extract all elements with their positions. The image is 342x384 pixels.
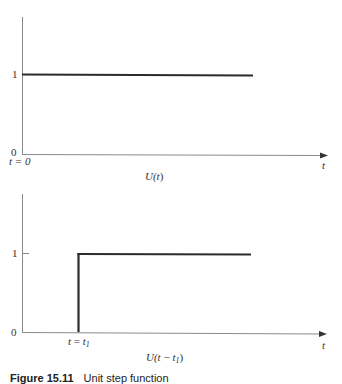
bottom-step-line: [78, 254, 252, 255]
figure-number: Figure 15.11: [10, 372, 74, 384]
bottom-x-tick-eq: =: [71, 335, 83, 347]
bottom-function-label-close: ): [179, 351, 183, 363]
bottom-function-label-minus: −: [161, 351, 173, 363]
bottom-x-tick-label: t = t1: [68, 335, 90, 351]
bottom-function-label: U(t − t1): [146, 351, 183, 367]
bottom-function-label-main: U(: [146, 351, 158, 363]
bottom-y-tick-1: 1: [12, 247, 18, 259]
bottom-x-axis-arrow-icon: [319, 331, 327, 337]
bottom-x-axis: [22, 333, 321, 335]
bottom-x-tick-sub: 1: [86, 340, 90, 349]
bottom-y-tick-0: 0: [11, 326, 17, 338]
figure-caption: Figure 15.11Unit step function: [10, 372, 169, 384]
figure-caption-text: Unit step function: [84, 372, 169, 384]
bottom-x-axis-label: t: [322, 339, 325, 351]
